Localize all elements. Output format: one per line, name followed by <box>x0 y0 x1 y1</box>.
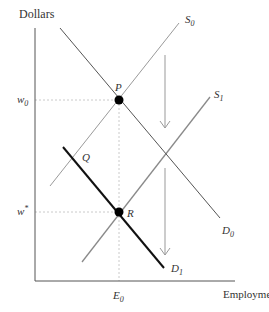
s0-label: S0 <box>185 13 195 28</box>
d0-label: D0 <box>221 224 234 239</box>
wstar-label: w* <box>17 204 28 217</box>
point-p-marker <box>115 96 124 105</box>
y-axis-label: Dollars <box>19 7 55 21</box>
shift-arrow-lower <box>160 168 170 255</box>
e0-label: E0 <box>112 289 124 304</box>
point-p-label: P <box>114 81 122 93</box>
shift-arrow-upper <box>160 55 170 128</box>
point-r-label: R <box>126 207 134 219</box>
point-r-marker <box>115 208 124 217</box>
demand-curve-d0 <box>60 28 220 218</box>
demand-curve-d1 <box>63 147 164 268</box>
point-q-label: Q <box>82 151 90 163</box>
d1-label: D1 <box>170 262 183 277</box>
labor-market-diagram: Dollars Employment w0 w* E0 P R Q S0 S1 … <box>0 0 269 312</box>
w0-label: w0 <box>17 93 28 108</box>
s1-label: S1 <box>214 88 224 103</box>
x-axis-label: Employment <box>223 288 269 300</box>
